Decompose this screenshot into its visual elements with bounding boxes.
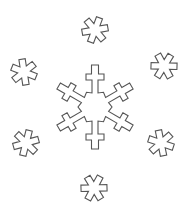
main-snowflake: [57, 65, 133, 149]
small-flake-bottom-right: [148, 130, 175, 157]
small-flake-outline: [11, 59, 38, 86]
small-flake-outline: [81, 175, 107, 201]
small-flake-outline: [13, 130, 40, 157]
small-flake-outline: [148, 130, 175, 157]
small-flake-bottom: [81, 175, 107, 201]
small-flake-bottom-left: [13, 130, 40, 157]
small-flake-outline: [82, 17, 109, 44]
snowflake-drawing: [0, 0, 195, 213]
small-flake-top: [82, 17, 109, 44]
small-flake-top-left: [11, 59, 38, 86]
main-snowflake-outline: [57, 65, 133, 149]
small-flake-top-right: [151, 53, 177, 79]
small-flake-outline: [151, 53, 177, 79]
